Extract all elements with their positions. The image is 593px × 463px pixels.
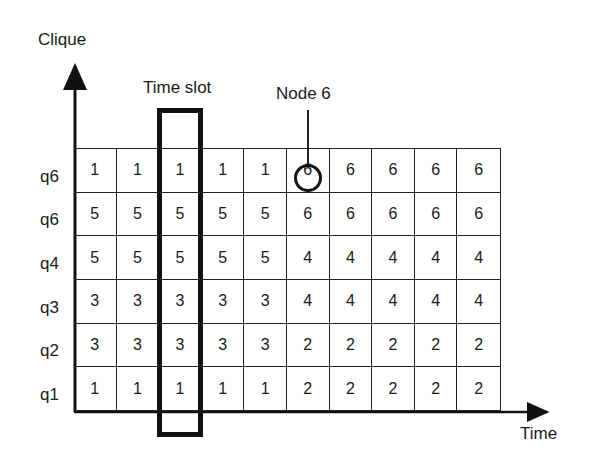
grid-cell: 6 [372, 193, 415, 237]
node-highlight-circle [294, 164, 322, 192]
x-axis-label: Time [520, 424, 557, 444]
grid-cell: 4 [415, 236, 458, 280]
grid-cell: 2 [415, 367, 458, 411]
grid-cell: 4 [457, 280, 500, 324]
grid-cell: 6 [330, 149, 373, 193]
grid-cell: 6 [372, 149, 415, 193]
grid-cell: 3 [74, 280, 117, 324]
clique-time-grid: 1 1 1 1 1 6 6 6 6 6 5 5 5 5 5 6 6 6 6 6 … [74, 148, 501, 411]
grid-cell: 3 [202, 280, 245, 324]
grid-cell: 3 [202, 324, 245, 368]
row-label: q6 [40, 210, 70, 230]
grid-cell: 6 [415, 193, 458, 237]
grid-cell: 5 [74, 193, 117, 237]
grid-cell: 1 [202, 367, 245, 411]
grid-cell: 4 [457, 236, 500, 280]
grid-cell: 6 [287, 193, 330, 237]
grid-cell: 6 [330, 193, 373, 237]
grid-cell: 1 [117, 149, 160, 193]
grid-cell: 5 [117, 193, 160, 237]
grid-cell: 2 [330, 367, 373, 411]
grid-cell: 1 [244, 367, 287, 411]
grid-cell: 2 [415, 324, 458, 368]
grid-cell: 1 [74, 149, 117, 193]
grid-cell: 2 [457, 367, 500, 411]
grid-cell: 5 [117, 236, 160, 280]
node-annotation-label: Node 6 [276, 84, 331, 104]
grid-cell: 6 [415, 149, 458, 193]
row-label: q6 [40, 167, 70, 187]
y-axis-label: Clique [38, 30, 86, 50]
grid-cell: 3 [244, 324, 287, 368]
grid-cell: 5 [202, 193, 245, 237]
time-slot-label: Time slot [143, 78, 211, 98]
node-annotation-leader-line [307, 110, 309, 164]
grid-cell: 4 [287, 280, 330, 324]
grid-cell: 5 [244, 193, 287, 237]
grid-cell: 2 [457, 324, 500, 368]
grid-cell: 4 [330, 280, 373, 324]
grid-cell: 3 [117, 324, 160, 368]
grid-cell: 5 [202, 236, 245, 280]
grid-cell: 1 [117, 367, 160, 411]
grid-cell: 5 [74, 236, 117, 280]
grid-cell: 3 [74, 324, 117, 368]
grid-cell: 2 [372, 367, 415, 411]
row-label: q4 [40, 254, 70, 274]
grid-cell: 2 [372, 324, 415, 368]
grid-cell: 4 [372, 236, 415, 280]
grid-cell: 4 [415, 280, 458, 324]
grid-cell: 2 [287, 324, 330, 368]
grid-cell: 3 [117, 280, 160, 324]
grid-cell: 1 [244, 149, 287, 193]
grid-cell: 4 [287, 236, 330, 280]
row-label: q1 [40, 385, 70, 405]
grid-cell: 6 [457, 149, 500, 193]
row-label: q2 [40, 341, 70, 361]
grid-cell: 1 [202, 149, 245, 193]
grid-cell: 5 [244, 236, 287, 280]
time-slot-highlight-box [157, 108, 203, 437]
grid-cell: 6 [457, 193, 500, 237]
grid-cell: 3 [244, 280, 287, 324]
grid-cell: 1 [74, 367, 117, 411]
row-label: q3 [40, 298, 70, 318]
grid-cell: 4 [330, 236, 373, 280]
grid-cell: 2 [287, 367, 330, 411]
grid-cell: 4 [372, 280, 415, 324]
grid-cell: 2 [330, 324, 373, 368]
